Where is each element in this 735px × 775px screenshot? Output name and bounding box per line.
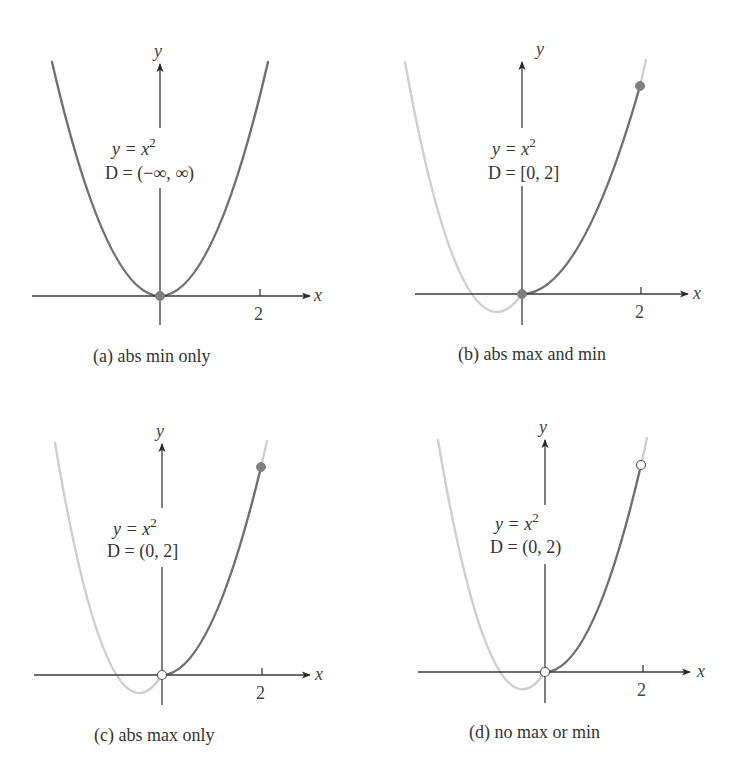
- panel-b: 2 x y y = x2 D = [0, 2] (b) abs max and …: [405, 39, 701, 365]
- x-axis-label: x: [313, 285, 322, 305]
- x-tick-label: 2: [635, 302, 644, 322]
- abs-max-point: [636, 82, 645, 91]
- function-text: y = x: [110, 139, 149, 159]
- exponent: 2: [529, 135, 536, 150]
- abs-min-point: [156, 292, 165, 301]
- parabola-curve-in-domain: [522, 86, 640, 294]
- panel-c: 2 x y y = x2 D = (0, 2] (c) abs max only: [34, 421, 323, 746]
- y-axis-label: y: [537, 417, 547, 437]
- parabola-curve-outside-domain: [55, 443, 162, 693]
- domain-label: D = [0, 2]: [488, 163, 559, 183]
- abs-min-point: [518, 290, 527, 299]
- panel-d: 2 x y y = x2 D = (0, 2) (d) no max or mi…: [418, 417, 705, 743]
- exponent: 2: [150, 515, 157, 530]
- parabola-curve-outside-domain: [405, 62, 522, 312]
- function-label: y = x2: [490, 135, 536, 159]
- x-axis-label: x: [692, 283, 701, 303]
- function-text: y = x: [490, 139, 529, 159]
- function-label: y = x2: [493, 510, 539, 534]
- figure-canvas: 2 x y y = x2 D = (−∞, ∞) (a) abs min onl…: [0, 0, 735, 775]
- panel-caption: (b) abs max and min: [458, 344, 606, 365]
- exponent: 2: [149, 135, 156, 150]
- domain-label: D = (0, 2]: [107, 541, 178, 562]
- panel-caption: (a) abs min only: [93, 346, 210, 367]
- y-axis-label: y: [154, 421, 164, 441]
- excluded-point: [158, 671, 167, 680]
- panel-caption: (d) no max or min: [469, 722, 600, 743]
- parabola-curve-in-domain: [545, 465, 641, 672]
- function-text: y = x: [111, 519, 150, 539]
- excluded-point-top: [637, 461, 646, 470]
- function-text: y = x: [493, 514, 532, 534]
- function-label: y = x2: [110, 135, 156, 159]
- parabola-curve-in-domain: [162, 467, 261, 675]
- function-label: y = x2: [111, 515, 157, 539]
- parabola-curve-outside-domain: [438, 440, 545, 689]
- y-axis-label: y: [152, 41, 162, 61]
- panel-caption: (c) abs max only: [94, 725, 214, 746]
- excluded-point-origin: [541, 668, 550, 677]
- panel-a: 2 x y y = x2 D = (−∞, ∞) (a) abs min onl…: [32, 41, 322, 367]
- x-axis-label: x: [314, 664, 323, 684]
- x-tick-label: 2: [254, 304, 263, 324]
- y-axis-label: y: [534, 39, 544, 59]
- domain-label: D = (−∞, ∞): [105, 163, 194, 184]
- x-axis-label: x: [696, 661, 705, 681]
- abs-max-point: [257, 463, 266, 472]
- x-tick-label: 2: [637, 680, 646, 700]
- x-tick-label: 2: [256, 683, 265, 703]
- domain-label: D = (0, 2): [490, 537, 561, 558]
- exponent: 2: [532, 510, 539, 525]
